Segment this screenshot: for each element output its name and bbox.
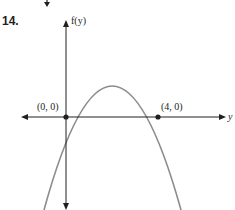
point-four-zero	[155, 114, 160, 119]
vertical-axis-label: f(y)	[71, 15, 86, 26]
point-origin-label: (0, 0)	[37, 101, 59, 112]
horizontal-axis-label: y	[228, 111, 232, 122]
point-origin	[63, 114, 68, 119]
right-arrow-icon	[219, 114, 226, 120]
graph	[0, 0, 235, 210]
point-four-zero-label: (4, 0)	[161, 101, 183, 112]
down-arrow-icon	[63, 203, 69, 210]
up-arrow-icon	[63, 20, 69, 27]
left-arrow-icon	[21, 114, 28, 120]
horizontal-axis	[21, 114, 226, 120]
marker-arrow-icon	[44, 0, 50, 7]
